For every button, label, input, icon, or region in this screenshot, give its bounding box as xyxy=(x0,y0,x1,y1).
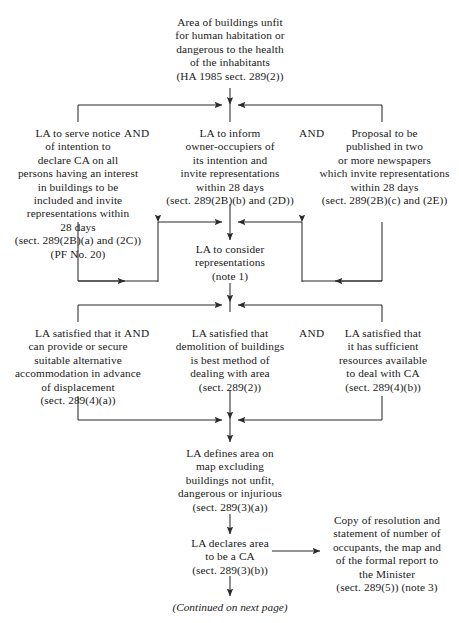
node-line: to deal with CA xyxy=(313,367,453,380)
node-line: of displacement xyxy=(0,381,156,394)
node-line: to be a CA xyxy=(156,550,304,563)
node-line: its intention and xyxy=(145,154,315,167)
node-line: it has sufficient xyxy=(313,340,453,353)
node-line: in buildings to be xyxy=(0,181,156,194)
continued-next-page-label: (Continued on next page) xyxy=(140,601,320,614)
node-publish-newspapers: Proposal to be published in two or more … xyxy=(310,127,459,207)
node-line: resources available xyxy=(313,354,453,367)
node-line: (sect. 289(4)(a)) xyxy=(0,394,156,407)
node-line: of intention to xyxy=(0,140,156,153)
node-line: within 28 days xyxy=(145,181,315,194)
node-line: suitable alternative xyxy=(0,354,156,367)
node-declares-area-ca: LA declares area to be a CA (sect. 289(3… xyxy=(156,537,304,577)
node-line: Proposal to be xyxy=(310,127,459,140)
node-line: is best method of xyxy=(148,354,312,367)
node-line: (HA 1985 sect. 289(2)) xyxy=(140,70,320,83)
node-line: (PF No. 20) xyxy=(0,248,156,261)
node-copy-of-resolution: Copy of resolution and statement of numb… xyxy=(315,514,459,594)
node-line: LA to consider xyxy=(160,243,300,256)
node-line: LA satisfied that xyxy=(148,327,312,340)
node-line: dangerous to the health xyxy=(140,43,320,56)
flowchart-page: Area of buildings unfit for human habita… xyxy=(0,0,459,623)
node-line: (sect. 289(3)(b)) xyxy=(156,564,304,577)
node-line: map excluding xyxy=(145,460,315,473)
node-line: (sect. 289(2B)(b) and (2D)) xyxy=(145,194,315,207)
node-line: buildings not unfit, xyxy=(145,474,315,487)
node-line: (sect. 289(2)) xyxy=(148,381,312,394)
node-line: (sect. 289(2B)(c) and (2E)) xyxy=(310,194,459,207)
node-line: which invite representations xyxy=(310,167,459,180)
node-line: dangerous or injurious xyxy=(145,487,315,500)
node-satisfied-demolition: LA satisfied that demolition of building… xyxy=(148,327,312,394)
node-line: declare CA on all xyxy=(0,154,156,167)
node-line: Copy of resolution and xyxy=(315,514,459,527)
node-area-unfit: Area of buildings unfit for human habita… xyxy=(140,16,320,83)
node-line: LA to inform xyxy=(145,127,315,140)
node-line: demolition of buildings xyxy=(148,340,312,353)
node-line: (note 1) xyxy=(160,270,300,283)
and-connector-row2-left: AND xyxy=(124,327,149,340)
node-line: persons having an interest xyxy=(0,167,156,180)
node-line: invite representations xyxy=(145,167,315,180)
node-line: the Minister xyxy=(315,568,459,581)
node-line: within 28 days xyxy=(310,181,459,194)
node-serve-notice: LA to serve notice of intention to decla… xyxy=(0,127,156,261)
node-line: (sect. 289(2B)(a) and (2C)) xyxy=(0,234,156,247)
node-line: of the formal report to xyxy=(315,554,459,567)
node-line: can provide or secure xyxy=(0,340,156,353)
node-line: of the inhabitants xyxy=(140,56,320,69)
node-line: owner-occupiers of xyxy=(145,140,315,153)
node-satisfied-resources: LA satisfied that it has sufficient reso… xyxy=(313,327,453,394)
node-line: LA satisfied that xyxy=(313,327,453,340)
node-defines-area-on-map: LA defines area on map excluding buildin… xyxy=(145,447,315,514)
node-line: representations xyxy=(160,256,300,269)
node-line: occupants, the map and xyxy=(315,541,459,554)
node-line: or more newspapers xyxy=(310,154,459,167)
node-line: (sect. 289(3)(a)) xyxy=(145,501,315,514)
node-line: statement of number of xyxy=(315,527,459,540)
node-line: representations within xyxy=(0,207,156,220)
node-line: Area of buildings unfit xyxy=(140,16,320,29)
node-line: for human habitation or xyxy=(140,29,320,42)
node-line: 28 days xyxy=(0,221,156,234)
node-line: accommodation in advance xyxy=(0,367,156,380)
node-line: included and invite xyxy=(0,194,156,207)
node-line: published in two xyxy=(310,140,459,153)
node-line: LA defines area on xyxy=(145,447,315,460)
node-line: LA declares area xyxy=(156,537,304,550)
node-line: dealing with area xyxy=(148,367,312,380)
node-line: (sect. 289(4)(b)) xyxy=(313,381,453,394)
node-inform-owner-occupiers: LA to inform owner-occupiers of its inte… xyxy=(145,127,315,207)
node-line: (sect. 289(5)) (note 3) xyxy=(315,581,459,594)
node-consider-representations: LA to consider representations (note 1) xyxy=(160,243,300,283)
